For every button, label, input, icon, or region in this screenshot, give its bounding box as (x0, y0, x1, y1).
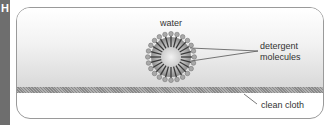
detergent-head (175, 77, 180, 82)
detergent-micelle (145, 31, 196, 82)
detergent-head (157, 35, 162, 40)
detergent-head (146, 61, 151, 66)
detergent-head (152, 71, 157, 76)
detergent-head (189, 66, 194, 71)
detergent-leader-line-lower (191, 51, 258, 61)
detergent-head (185, 71, 190, 76)
water-label: water (160, 18, 182, 28)
detergent-label-line1: detergent (260, 41, 298, 51)
detergent-head (189, 43, 194, 48)
detergent-leader-line-upper (190, 48, 258, 51)
detergent-head (169, 78, 174, 83)
detergent-head (152, 38, 157, 43)
detergent-head (149, 43, 154, 48)
detergent-head (163, 77, 168, 82)
detergent-head (145, 55, 150, 60)
detergent-head (169, 31, 174, 36)
detergent-head (180, 75, 185, 80)
detergent-head (175, 32, 180, 37)
detergent-head (185, 38, 190, 43)
detergent-label-line2: molecules (260, 52, 301, 62)
cloth-leader-line (244, 94, 257, 104)
detergent-head (191, 49, 196, 54)
detergent-head (180, 35, 185, 40)
detergent-head (149, 66, 154, 71)
detergent-head (163, 32, 168, 37)
detergent-head (191, 61, 196, 66)
detergent-head (192, 55, 197, 60)
detergent-head (146, 49, 151, 54)
detergent-head (157, 75, 162, 80)
cloth-label: clean cloth (261, 100, 304, 110)
